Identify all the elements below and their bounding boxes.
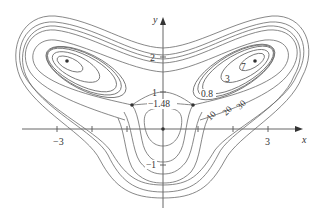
y-axis-arrow-icon [160, 17, 166, 25]
local-max-right-point [253, 59, 257, 63]
level-label: 20 [220, 104, 234, 118]
level-label: −1.48 [148, 99, 170, 109]
saddle-right-point [191, 103, 195, 107]
level-label: 30 [234, 98, 248, 112]
level-label: −1 [146, 160, 156, 170]
origin-point [161, 127, 165, 131]
saddle-left-point [130, 103, 134, 107]
contour-labels: −1.48 0.8 3 7 −1 10 20 30 [145, 62, 248, 170]
level-label: 10 [204, 109, 218, 123]
x-axis-arrow-icon [295, 126, 303, 132]
level-label: 3 [225, 74, 230, 84]
x-tick-label: −3 [53, 136, 64, 147]
contours-right-peak [185, 33, 283, 110]
local-max-left-point [65, 59, 69, 63]
y-axis-label: y [152, 14, 158, 25]
x-axis-label: x [301, 134, 307, 145]
level-label: 7 [241, 62, 246, 72]
level-label: 0.8 [201, 89, 213, 99]
x-tick-label: 3 [265, 136, 270, 147]
contour-plot: −3 3 2 1 −1 x y [0, 0, 320, 213]
